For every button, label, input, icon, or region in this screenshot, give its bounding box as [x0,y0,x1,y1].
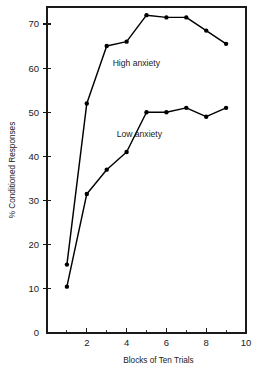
x-tick-label: 2 [84,337,89,348]
series-label-2: Low anxiety [117,129,163,139]
data-point [124,150,128,154]
data-point [144,110,148,114]
data-point [85,101,89,105]
chart-canvas: 010203040506070 246810 High anxietyLow a… [0,0,266,376]
series-label-1: High anxiety [113,58,161,68]
y-tick-label: 30 [28,195,39,206]
data-point [204,115,208,119]
data-point [105,44,109,48]
data-point [184,15,188,19]
x-axis-title: Blocks of Ten Trials [123,356,193,365]
chart-figure: 010203040506070 246810 High anxietyLow a… [0,0,266,376]
y-tick-label: 60 [28,63,39,74]
y-axis-title: % Conditioned Responses [8,122,17,219]
data-point [164,15,168,19]
data-point [184,106,188,110]
data-point [65,284,69,288]
y-tick-label: 20 [28,239,39,250]
x-tick-label: 6 [164,337,169,348]
chart-background [0,0,266,376]
x-tick-label: 4 [124,337,129,348]
data-point [105,167,109,171]
data-point [144,13,148,17]
y-tick-label: 0 [34,327,39,338]
data-point [65,262,69,266]
data-point [124,39,128,43]
y-tick-label: 50 [28,107,39,118]
data-point [85,192,89,196]
data-point [204,28,208,32]
y-tick-label: 40 [28,151,39,162]
x-tick-label: 10 [241,337,252,348]
y-tick-label: 70 [28,18,39,29]
data-point [164,110,168,114]
x-tick-label: 8 [204,337,209,348]
data-point [224,106,228,110]
data-point [224,42,228,46]
y-tick-label: 10 [28,283,39,294]
